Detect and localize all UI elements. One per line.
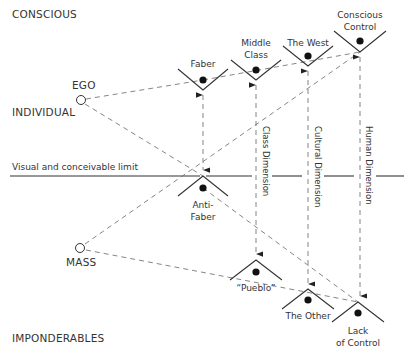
- svg-text:of Control: of Control: [336, 338, 380, 348]
- node-the-west: The West: [283, 38, 333, 66]
- node-anti-faber: Anti- Faber: [178, 176, 228, 222]
- zone-conscious: CONSCIOUS: [12, 8, 77, 20]
- cultural-dimension-label: Cultural Dimension: [313, 126, 323, 207]
- mass-node: [76, 244, 85, 253]
- node-lack-of-control: Lack of Control: [332, 302, 384, 348]
- svg-text:Control: Control: [344, 22, 377, 32]
- faber-to-control: [203, 52, 360, 80]
- zone-imponderables: IMPONDERABLES: [12, 332, 104, 344]
- diagram-canvas: CONSCIOUS INDIVIDUAL IMPONDERABLES Visua…: [0, 0, 410, 354]
- svg-text:Lack: Lack: [348, 326, 369, 336]
- limit-label: Visual and conceivable limit: [12, 162, 138, 172]
- svg-text:Conscious: Conscious: [337, 10, 383, 20]
- svg-text:Faber: Faber: [191, 212, 216, 222]
- class-dimension-label: Class Dimension: [261, 126, 271, 196]
- node-pueblo: “Pueblo”: [230, 260, 282, 293]
- node-the-other: The Other: [282, 289, 334, 321]
- mass-to-lack: [86, 250, 358, 302]
- svg-text:The West: The West: [286, 38, 329, 48]
- node-conscious-control: Conscious Control: [334, 10, 386, 52]
- mass-label: MASS: [66, 256, 97, 268]
- svg-text:Middle: Middle: [241, 38, 271, 48]
- ego-to-faber: [86, 80, 203, 99]
- svg-text:Anti-: Anti-: [192, 200, 213, 210]
- node-faber: Faber: [178, 59, 228, 90]
- ego-label: EGO: [72, 79, 96, 91]
- zone-individual: INDIVIDUAL: [12, 106, 75, 118]
- svg-text:Faber: Faber: [191, 59, 216, 69]
- svg-text:The Other: The Other: [284, 311, 330, 321]
- svg-text:“Pueblo”: “Pueblo”: [237, 283, 276, 293]
- anti-faber-to-lack: [203, 188, 358, 302]
- human-dimension-label: Human Dimension: [364, 126, 374, 205]
- svg-text:Class: Class: [244, 50, 268, 60]
- ego-node: [77, 96, 86, 105]
